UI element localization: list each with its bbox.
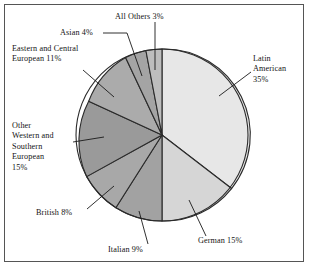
pie-label-eastern-central-european: Eastern and Central European 11% (12, 44, 78, 65)
pie-label-latin-american: Latin American 35% (253, 54, 286, 85)
pie-label-german: German 15% (198, 236, 242, 246)
pie-label-italian: Italian 9% (108, 245, 143, 255)
pie-label-asian: Asian 4% (60, 28, 93, 38)
pie-label-british: British 8% (36, 208, 72, 218)
pie-label-all-others: All Others 3% (115, 12, 164, 22)
pie-label-other-western-southern-european: Other Western and Southern European 15% (12, 121, 54, 173)
pie-chart-figure: Latin American 35% German 15% Italian 9%… (0, 0, 310, 268)
